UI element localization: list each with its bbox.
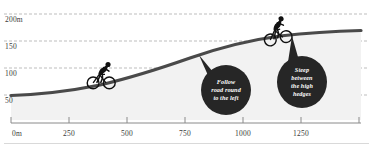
callout-line: Steep — [288, 66, 316, 74]
callout-follow-road[interactable]: Follow road round to the left — [201, 65, 251, 115]
callout-line: the high — [288, 82, 316, 90]
x-tick-label-500: 500 — [121, 129, 133, 138]
y-tick-label-150: 150 — [5, 42, 17, 51]
callout-line: to the left — [208, 94, 244, 102]
elevation-profile-chart: 200m 150 100 50 0m 250 500 750 1000 1250… — [0, 0, 373, 147]
y-tick-label-50: 50 — [5, 96, 13, 105]
y-tick-label-100: 100 — [5, 69, 17, 78]
x-tick-label-1000: 1000 — [235, 129, 251, 138]
callout-steep-hedges[interactable]: Steep between the high hedges — [277, 56, 327, 108]
x-tick-label-250: 250 — [63, 129, 75, 138]
y-tick-label-200: 200m — [5, 15, 23, 24]
callout-line: road round — [208, 86, 244, 94]
bottom-divider — [4, 143, 369, 144]
callout-line: hedges — [288, 90, 316, 98]
callout-line: Follow — [208, 78, 244, 86]
x-tick-label-0: 0m — [12, 129, 22, 138]
x-tick-label-1250: 1250 — [293, 129, 309, 138]
callout-line: between — [288, 74, 316, 82]
x-tick-label-750: 750 — [179, 129, 191, 138]
